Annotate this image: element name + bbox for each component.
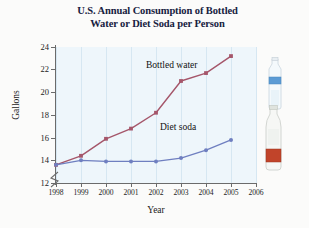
gridline-vertical <box>206 47 207 183</box>
bottled-water-label: Bottled water <box>146 60 197 70</box>
water-bottle-image <box>262 57 288 111</box>
x-tick <box>181 183 182 187</box>
gridline-vertical <box>231 47 232 183</box>
x-tick <box>131 183 132 187</box>
gridline-vertical <box>131 47 132 183</box>
chart-title-line2: Water or Diet Soda per Person <box>50 18 265 31</box>
y-tick-label: 22 <box>27 64 49 74</box>
x-tick-label: 2002 <box>143 188 169 197</box>
y-tick <box>51 138 56 139</box>
x-tick-label: 2005 <box>218 188 244 197</box>
y-axis-title: Gallons <box>11 75 21 135</box>
x-tick-label: 2003 <box>168 188 194 197</box>
x-tick-label: 2006 <box>243 188 269 197</box>
x-tick-label: 1998 <box>43 188 69 197</box>
x-tick <box>231 183 232 187</box>
x-tick <box>156 183 157 187</box>
y-tick-label: 18 <box>27 110 49 120</box>
gridline-vertical <box>81 47 82 183</box>
axis-break-icon <box>47 170 63 188</box>
x-tick-label: 2004 <box>193 188 219 197</box>
y-tick-label: 20 <box>27 87 49 97</box>
y-tick <box>51 47 56 48</box>
y-tick-label: 16 <box>27 133 49 143</box>
gridline-vertical <box>256 47 257 183</box>
x-tick <box>256 183 257 187</box>
x-tick-label: 2001 <box>118 188 144 197</box>
y-tick-label: 24 <box>27 42 49 52</box>
x-tick-label: 2000 <box>93 188 119 197</box>
y-tick <box>51 92 56 93</box>
y-tick-label: 12 <box>27 178 49 188</box>
chart-figure: U.S. Annual Consumption of Bottled Water… <box>0 0 309 228</box>
x-tick <box>81 183 82 187</box>
y-tick <box>51 160 56 161</box>
y-tick <box>51 115 56 116</box>
x-axis-title: Year <box>96 205 216 215</box>
gridline-vertical <box>106 47 107 183</box>
x-tick <box>206 183 207 187</box>
x-tick <box>106 183 107 187</box>
y-tick-label: 14 <box>27 155 49 165</box>
chart-title: U.S. Annual Consumption of Bottled Water… <box>50 5 265 30</box>
y-tick <box>51 69 56 70</box>
soda-bottle-image <box>258 105 288 173</box>
x-tick-label: 1999 <box>68 188 94 197</box>
diet-soda-label: Diet soda <box>160 122 196 132</box>
x-tick <box>56 183 57 187</box>
chart-title-line1: U.S. Annual Consumption of Bottled <box>77 5 238 16</box>
